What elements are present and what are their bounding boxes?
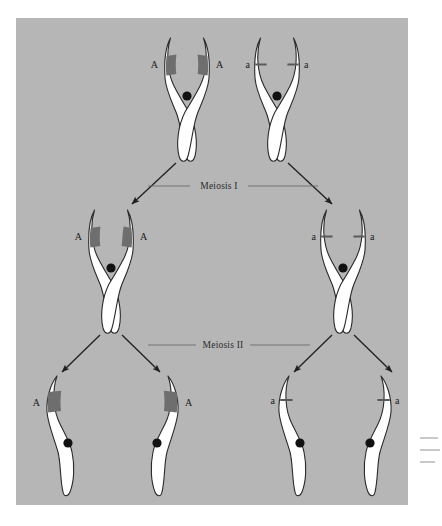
centromere	[365, 438, 374, 447]
meiosis-figure: A A a a Meiosis I	[0, 0, 442, 526]
centromere	[295, 438, 304, 447]
stage-label-meiosis-2: Meiosis II	[203, 340, 244, 350]
chromosome-gamete-2: A	[151, 376, 193, 496]
caption-fragment-line-2	[420, 449, 440, 451]
allele-label-right: A	[216, 59, 224, 70]
centromere	[338, 263, 347, 272]
chromosome-gamete-1: A	[33, 376, 74, 496]
chromatid	[279, 376, 306, 496]
centromere	[63, 438, 72, 447]
centromere	[152, 438, 161, 447]
chromosome-parent-A: A A	[151, 38, 224, 161]
chromosome-daughter-A: A A	[75, 210, 148, 333]
arrow-3	[294, 335, 332, 372]
allele-label-left: a	[246, 59, 251, 70]
chromatid	[364, 376, 391, 496]
allele-label-right: a	[304, 59, 309, 70]
chromosome-gamete-4: a	[364, 376, 400, 496]
meiosis-1-arrows: Meiosis I	[132, 163, 332, 204]
arrow-2	[122, 335, 160, 372]
centromere	[182, 91, 191, 100]
caption-fragment-line-1	[420, 437, 438, 439]
stage-label-meiosis-1: Meiosis I	[200, 181, 237, 191]
allele-band	[164, 391, 178, 413]
arrow-right	[288, 163, 332, 204]
allele-band-left	[90, 227, 101, 248]
caption-fragment-line-3	[420, 461, 435, 463]
arrow-1	[62, 335, 100, 372]
meiosis-2-arrows: Meiosis II	[62, 335, 392, 372]
allele-band	[48, 391, 62, 413]
allele-label-right: A	[140, 231, 148, 242]
allele-label: A	[33, 397, 41, 408]
centromere	[272, 91, 281, 100]
allele-band-right	[122, 227, 132, 248]
arrow-4	[354, 335, 392, 372]
allele-label-right: a	[370, 231, 375, 242]
allele-label-left: A	[75, 231, 83, 242]
chromosome-daughter-a: a a	[312, 210, 375, 333]
chromosome-gamete-3: a	[271, 376, 306, 496]
allele-label: a	[395, 395, 400, 406]
allele-band-right	[198, 55, 209, 76]
allele-label: A	[185, 397, 193, 408]
allele-label-left: a	[312, 231, 317, 242]
arrow-left	[132, 163, 176, 204]
centromere	[106, 263, 115, 272]
allele-band-left	[166, 55, 177, 76]
allele-label: a	[271, 395, 276, 406]
chromosome-parent-a: a a	[246, 38, 309, 161]
meiosis-diagram: A A a a Meiosis I	[0, 0, 442, 526]
allele-label-left: A	[151, 59, 159, 70]
